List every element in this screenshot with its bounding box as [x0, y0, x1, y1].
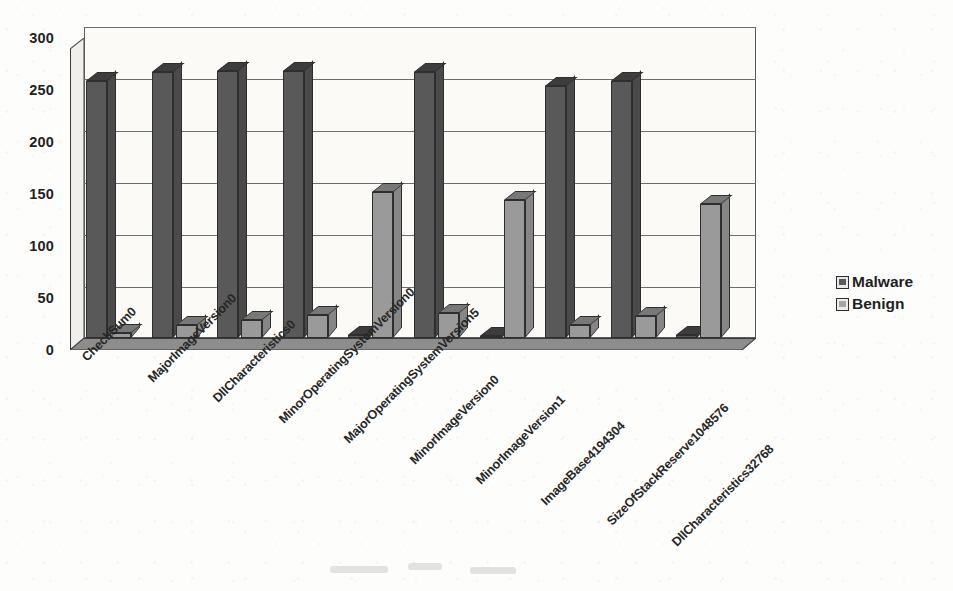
bar-side-face [107, 70, 116, 338]
y-tick-label: 200 [8, 135, 54, 150]
y-tick-label: 250 [8, 83, 54, 98]
bar-malware-0[interactable] [86, 81, 107, 338]
malware-swatch-icon [836, 276, 849, 289]
benign-swatch-icon [836, 298, 849, 311]
bar-side-face [721, 193, 730, 338]
y-tick-label: 50 [8, 291, 54, 306]
y-tick-label: 0 [8, 343, 54, 358]
bar-front-face [676, 335, 697, 338]
bar-side-face [304, 60, 313, 338]
bar-front-face [152, 72, 173, 338]
chart-side-panel [70, 38, 84, 349]
bar-side-face [238, 60, 247, 338]
bar-benign-7[interactable] [569, 325, 590, 338]
bar-front-face [635, 316, 656, 338]
bar-front-face [283, 71, 304, 338]
bar-side-face [632, 70, 641, 338]
bar-malware-7[interactable] [545, 86, 566, 338]
bar-benign-9[interactable] [700, 204, 721, 338]
bar-malware-9[interactable] [676, 335, 697, 338]
bar-front-face [414, 72, 435, 338]
bar-front-face [700, 204, 721, 338]
legend-label-benign: Benign [852, 295, 905, 313]
bar-front-face [545, 86, 566, 338]
bar-malware-6[interactable] [480, 336, 501, 339]
gridline-300 [84, 27, 756, 28]
bar-front-face [569, 325, 590, 338]
scan-smudge [408, 563, 442, 570]
bar-benign-8[interactable] [635, 316, 656, 338]
legend-item-benign[interactable]: Benign [836, 293, 913, 315]
bar-front-face [307, 315, 328, 338]
bar-benign-6[interactable] [504, 200, 525, 338]
bar-chart: 300 250 200 150 100 50 0 CheckSum0MajorI… [0, 0, 953, 591]
x-axis-label-7: ImageBase4194304 [539, 419, 627, 507]
bar-front-face [86, 81, 107, 338]
bar-malware-8[interactable] [611, 81, 632, 338]
y-tick-label: 100 [8, 239, 54, 254]
chart-legend: Malware Benign [836, 271, 913, 315]
plot-area [70, 38, 756, 349]
bar-side-face [173, 61, 182, 338]
x-axis-label-6: MinorImageVersion1 [474, 393, 567, 486]
scan-smudge [470, 567, 516, 574]
y-tick-label: 150 [8, 187, 54, 202]
y-tick-label: 300 [8, 31, 54, 46]
y-axis-line [70, 49, 71, 349]
bar-benign-2[interactable] [241, 320, 262, 338]
bar-front-face [611, 81, 632, 338]
bar-front-face [241, 320, 262, 338]
bar-side-face [525, 189, 534, 338]
bar-malware-1[interactable] [152, 72, 173, 338]
x-axis-label-5: MinorImageVersion0 [408, 373, 501, 466]
bar-side-face [435, 61, 444, 338]
x-axis-label-9: DllCharacteristics32768 [670, 442, 776, 548]
scan-smudge [330, 566, 388, 573]
bar-front-face [504, 200, 525, 338]
bar-malware-5[interactable] [414, 72, 435, 338]
bar-malware-3[interactable] [283, 71, 304, 338]
bar-benign-3[interactable] [307, 315, 328, 338]
bar-side-face [566, 75, 575, 338]
legend-label-malware: Malware [852, 273, 913, 291]
legend-item-malware[interactable]: Malware [836, 271, 913, 293]
